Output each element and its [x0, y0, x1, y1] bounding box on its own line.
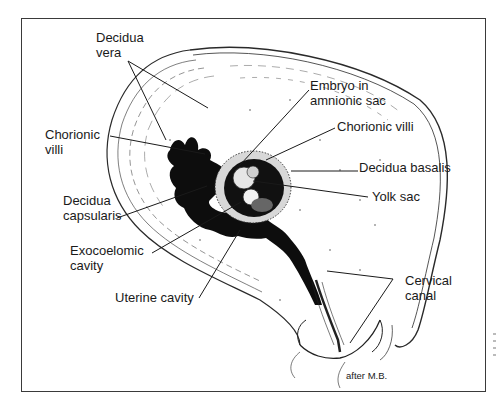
label-uterine-cavity: Uterine cavity	[115, 290, 194, 305]
label-decidua-capsularis: Decidua capsularis	[63, 193, 122, 223]
edge-artifact	[493, 333, 497, 368]
label-yolk-sac: Yolk sac	[372, 189, 420, 204]
label-decidua-basalis: Decidua basalis	[359, 160, 451, 175]
label-decidua-vera: Decidua vera	[96, 30, 144, 60]
label-chorionic-villi-left: Chorionic villi	[45, 127, 100, 157]
credit-text: after M.B.	[346, 370, 387, 381]
label-exocoelomic-cavity: Exocoelomic cavity	[70, 243, 144, 273]
label-chorionic-villi-right: Chorionic villi	[337, 119, 414, 134]
label-embryo-in-amnionic-sac: Embryo in amnionic sac	[310, 78, 386, 108]
label-cervical-canal: Cervical canal	[405, 273, 452, 303]
embryo	[247, 166, 259, 178]
hatched-region	[251, 198, 273, 212]
